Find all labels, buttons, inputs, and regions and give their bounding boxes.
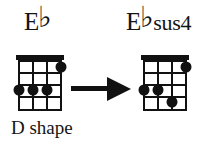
finger-dot bbox=[14, 85, 25, 96]
fret-line bbox=[143, 96, 187, 98]
shape-caption: D shape bbox=[11, 118, 73, 137]
left-chord-title: E♭ bbox=[24, 6, 51, 35]
left-chord-accidental-icon: ♭ bbox=[38, 1, 51, 33]
chord-figure: E♭ E♭sus4 bbox=[0, 0, 217, 152]
finger-dot bbox=[153, 85, 164, 96]
fret-line bbox=[143, 109, 187, 111]
finger-dot bbox=[42, 85, 53, 96]
fret-line bbox=[18, 84, 62, 86]
arrow-right-icon bbox=[71, 77, 131, 101]
fret-line bbox=[143, 72, 187, 74]
finger-dot bbox=[181, 62, 192, 73]
right-chord-accidental-icon: ♭ bbox=[140, 1, 153, 33]
left-chord-root: E bbox=[24, 8, 39, 35]
finger-dot bbox=[28, 85, 39, 96]
fret-line bbox=[143, 60, 187, 62]
fret-line bbox=[18, 96, 62, 98]
right-chord-suffix: sus4 bbox=[153, 10, 191, 35]
finger-dot bbox=[167, 97, 178, 108]
fret-line bbox=[18, 72, 62, 74]
left-chord-diagram bbox=[18, 55, 62, 111]
fret-line bbox=[143, 84, 187, 86]
fret-line bbox=[18, 60, 62, 62]
right-chord-title: E♭sus4 bbox=[126, 6, 191, 35]
finger-dot bbox=[139, 85, 150, 96]
right-chord-diagram bbox=[143, 55, 187, 111]
finger-dot bbox=[56, 62, 67, 73]
fret-line bbox=[18, 109, 62, 111]
right-chord-root: E bbox=[126, 8, 141, 35]
